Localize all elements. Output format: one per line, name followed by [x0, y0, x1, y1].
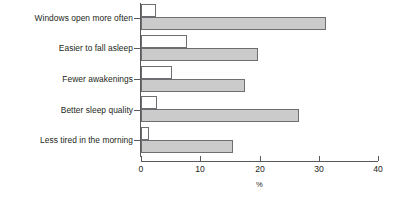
x-axis-tick-40	[378, 156, 379, 161]
y-axis-tick-3	[134, 79, 140, 80]
x-axis-tick-20	[260, 156, 261, 161]
x-axis-tick-label-30: 30	[307, 164, 331, 174]
x-axis-tick-label-10: 10	[188, 164, 212, 174]
category-label-less-tired-in-the-morning: Less tired in the morning	[40, 136, 133, 145]
category-label-windows-open-more-often: Windows open more often	[35, 14, 133, 23]
category-label-fewer-awakenings: Fewer awakenings	[62, 75, 133, 84]
x-axis-tick-30	[319, 156, 320, 161]
category-axis-labels: Windows open more often Easier to fall a…	[0, 0, 133, 158]
bar-dark-2	[141, 79, 245, 92]
x-axis-tick-label-40: 40	[366, 164, 390, 174]
bar-dark-4	[141, 140, 233, 153]
x-axis-tick-10	[200, 156, 201, 161]
category-label-better-sleep-quality: Better sleep quality	[61, 106, 133, 115]
y-axis-tick-1	[134, 18, 140, 19]
bar-dark-0	[141, 17, 326, 30]
x-axis-tick-0	[141, 156, 142, 161]
plot-area	[141, 0, 381, 158]
x-axis-tick-label-0: 0	[129, 164, 153, 174]
bar-chart: Windows open more often Easier to fall a…	[0, 0, 398, 199]
bar-light-2	[141, 66, 172, 79]
category-label-easier-to-fall-asleep: Easier to fall asleep	[59, 44, 133, 53]
bar-light-0	[141, 4, 156, 17]
bar-dark-1	[141, 48, 258, 61]
y-axis-tick-2	[134, 48, 140, 49]
bar-light-4	[141, 127, 149, 140]
x-axis-tick-label-20: 20	[248, 164, 272, 174]
bar-light-3	[141, 96, 157, 109]
x-axis-line	[141, 161, 378, 162]
y-axis-tick-4	[134, 110, 140, 111]
y-axis-tick-5	[134, 140, 140, 141]
bar-light-1	[141, 35, 187, 48]
x-axis-title: %	[141, 180, 378, 189]
bar-dark-3	[141, 109, 299, 122]
